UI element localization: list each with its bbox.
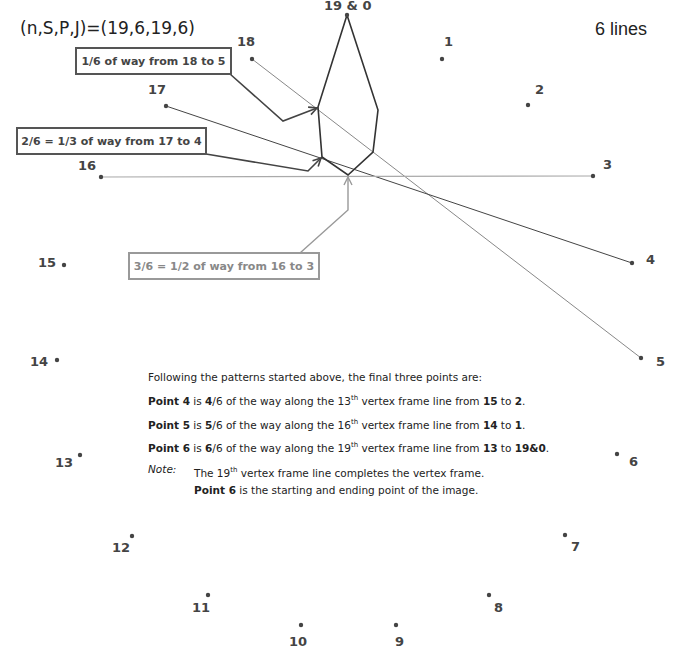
frame-point-label: 14 [30, 354, 48, 369]
vertex-frame-line [252, 59, 641, 358]
parameters-title: (n,S,P,J)=(19,6,19,6) [20, 18, 195, 38]
frame-point-dot [62, 263, 66, 267]
callout-connector [206, 154, 321, 171]
frame-point-label: 9 [395, 634, 404, 649]
callout-connector [300, 177, 348, 253]
frame-point-label: 17 [148, 82, 166, 97]
drawn-polygon [318, 15, 378, 175]
callout-3-text: 3/6 = 1/2 of way from 16 to 3 [134, 260, 314, 273]
frame-point-dot [440, 57, 444, 61]
frame-point-dot [55, 358, 59, 362]
callout-connector [230, 74, 317, 121]
diagram-canvas [0, 0, 674, 663]
vertex-frame-line [101, 176, 593, 177]
frame-point-dot [394, 623, 398, 627]
explanation-row-point6: Point 6 is 6/6 of the way along the 19th… [148, 435, 608, 459]
callout-3: 3/6 = 1/2 of way from 16 to 3 [128, 252, 320, 280]
callout-1: 1/6 of way from 18 to 5 [75, 47, 232, 75]
frame-point-dot [78, 453, 82, 457]
explanation-row-point5: Point 5 is 5/6 of the way along the 16th… [148, 412, 608, 436]
frame-point-dot [299, 623, 303, 627]
note-line-2: Point 6 is the starting and ending point… [194, 481, 484, 499]
frame-point-label: 4 [646, 252, 655, 267]
callout-2-text: 2/6 = 1/3 of way from 17 to 4 [21, 135, 201, 148]
frame-point-dot [99, 175, 103, 179]
frame-point-label: 16 [78, 158, 96, 173]
frame-point-label: 15 [38, 255, 56, 270]
frame-point-label: 13 [55, 455, 73, 470]
frame-point-dot [164, 104, 168, 108]
frame-point-dot [630, 261, 634, 265]
frame-point-label: 7 [571, 539, 580, 554]
frame-point-label: 1 [444, 34, 453, 49]
frame-point-label: 3 [603, 157, 612, 172]
note-line-1: The 19th vertex frame line completes the… [194, 461, 484, 482]
frame-point-dot [345, 13, 349, 17]
frame-point-dot [639, 356, 643, 360]
frame-point-label: 11 [192, 600, 210, 615]
frame-point-dot [591, 174, 595, 178]
lines-count: 6 lines [595, 19, 647, 40]
frame-point-dot [250, 57, 254, 61]
frame-point-label: 6 [629, 454, 638, 469]
explanation-intro: Following the patterns started above, th… [148, 367, 608, 388]
callout-2: 2/6 = 1/3 of way from 17 to 4 [16, 127, 207, 155]
frame-point-dot [206, 593, 210, 597]
frame-point-label: 2 [535, 82, 544, 97]
frame-point-label: 5 [656, 354, 665, 369]
explanation-text: Following the patterns started above, th… [148, 367, 608, 499]
frame-point-label: 19 & 0 [324, 0, 372, 13]
frame-point-dot [563, 533, 567, 537]
frame-point-dot [487, 593, 491, 597]
frame-point-label: 18 [237, 34, 255, 49]
frame-point-label: 12 [112, 540, 130, 555]
explanation-row-point4: Point 4 is 4/6 of the way along the 13th… [148, 388, 608, 412]
frame-point-label: 10 [289, 634, 307, 649]
note-label: Note: [148, 459, 194, 500]
frame-point-dot [526, 103, 530, 107]
explanation-note: Note: The 19th vertex frame line complet… [148, 459, 608, 500]
vertex-frame-line [166, 106, 632, 263]
frame-point-dot [615, 452, 619, 456]
frame-point-dot [130, 534, 134, 538]
frame-point-label: 8 [494, 600, 503, 615]
callout-1-text: 1/6 of way from 18 to 5 [81, 55, 225, 68]
